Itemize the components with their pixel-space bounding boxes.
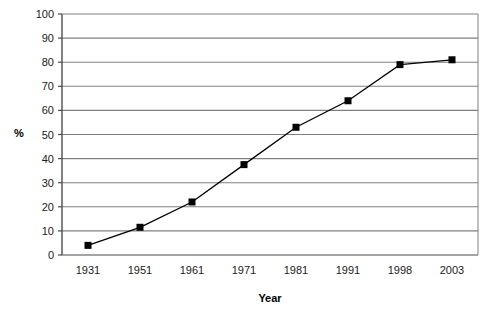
chart-canvas: 0102030405060708090100 19311951196119711… [0, 0, 494, 317]
x-tick-label: 1971 [232, 264, 256, 276]
x-tick-label: 1981 [284, 264, 308, 276]
data-point-marker [397, 61, 404, 68]
y-tick-label: 60 [42, 104, 54, 116]
y-tick-label: 50 [42, 129, 54, 141]
y-tick-label: 20 [42, 201, 54, 213]
line-chart: 0102030405060708090100 19311951196119711… [0, 0, 494, 317]
y-axis-title: % [14, 127, 24, 139]
y-tick-label: 80 [42, 56, 54, 68]
x-tick-label: 1951 [128, 264, 152, 276]
data-point-marker [137, 224, 144, 231]
x-tick-label: 1931 [76, 264, 100, 276]
y-tick-label: 100 [36, 8, 54, 20]
y-tick-label: 0 [48, 249, 54, 261]
data-point-marker [241, 161, 248, 168]
x-tick-label: 1991 [336, 264, 360, 276]
y-tick-label: 10 [42, 225, 54, 237]
data-point-marker [85, 242, 92, 249]
y-tick-label: 90 [42, 32, 54, 44]
y-tick-label: 70 [42, 80, 54, 92]
data-point-marker [293, 124, 300, 131]
y-tick-label: 40 [42, 153, 54, 165]
y-tick-label: 30 [42, 177, 54, 189]
data-point-marker [189, 198, 196, 205]
x-tick-label: 1998 [388, 264, 412, 276]
x-tick-label: 1961 [180, 264, 204, 276]
x-axis-title: Year [258, 292, 282, 304]
x-tick-label: 2003 [440, 264, 464, 276]
data-point-marker [345, 97, 352, 104]
data-point-marker [449, 56, 456, 63]
